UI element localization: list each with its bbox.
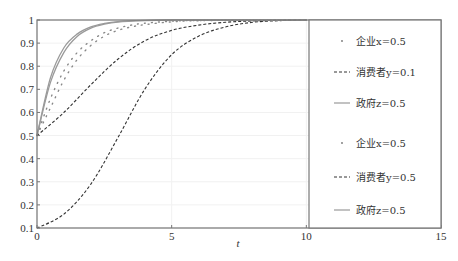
legend-label: 消费者y=0.5 [356, 171, 416, 183]
legend-label: 消费者y=0.1 [356, 66, 416, 78]
x-axis-label: t [236, 237, 240, 249]
x-tick-label: 15 [436, 230, 448, 242]
legend: 企业x=0.5消费者y=0.1政府z=0.5企业x=0.5消费者y=0.5政府z… [309, 20, 441, 228]
x-tick-label: 10 [301, 230, 313, 242]
y-tick-label: 0.2 [20, 199, 34, 211]
legend-label: 企业x=0.5 [356, 137, 406, 149]
y-tick-label: 1 [29, 14, 35, 26]
dot-marker-icon [341, 142, 343, 144]
dot-marker-icon [341, 40, 343, 42]
line-chart: 0.10.20.30.40.50.60.70.80.91 051015 t 企业… [0, 0, 458, 261]
x-tick-label: 5 [169, 230, 175, 242]
y-tick-label: 0.1 [20, 222, 34, 234]
y-tick-label: 0.8 [20, 60, 34, 72]
y-tick-label: 0.7 [20, 83, 34, 95]
legend-label: 政府z=0.5 [356, 204, 406, 216]
y-tick-label: 0.5 [20, 130, 34, 142]
x-tick-label: 0 [34, 230, 40, 242]
legend-label: 企业x=0.5 [356, 35, 406, 47]
y-tick-label: 0.9 [20, 37, 34, 49]
y-tick-label: 0.3 [20, 176, 34, 188]
y-tick-label: 0.6 [20, 106, 34, 118]
y-tick-label: 0.4 [20, 153, 34, 165]
legend-label: 政府z=0.5 [356, 97, 406, 109]
legend-box [309, 20, 441, 228]
